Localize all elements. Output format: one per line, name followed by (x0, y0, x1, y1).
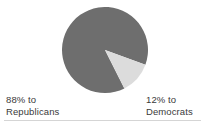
pie-chart-figure: 88% to Republicans 12% to Democrats (0, 0, 205, 125)
pie-label-republicans-percent: 88% to (6, 94, 59, 106)
pie-chart-graphic (62, 7, 148, 93)
bottom-divider-rule (4, 120, 201, 121)
pie-label-democrats: 12% to Democrats (146, 94, 193, 117)
pie-svg (62, 7, 148, 93)
pie-label-republicans: 88% to Republicans (6, 94, 59, 117)
pie-label-democrats-party: Democrats (146, 106, 193, 118)
pie-label-republicans-party: Republicans (6, 106, 59, 118)
pie-label-democrats-percent: 12% to (146, 94, 193, 106)
